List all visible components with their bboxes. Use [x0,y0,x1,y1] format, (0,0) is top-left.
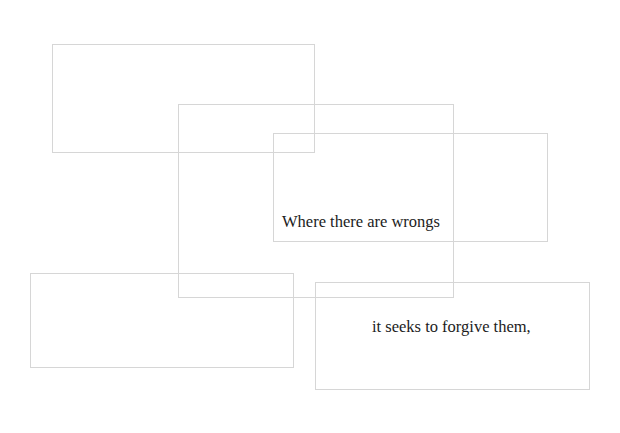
text-it-seeks-to-forgive-them: it seeks to forgive them, [372,319,531,336]
frame-box-4 [30,273,294,368]
text-where-there-are-wrongs: Where there are wrongs [282,214,440,231]
frame-box-5 [315,282,590,390]
